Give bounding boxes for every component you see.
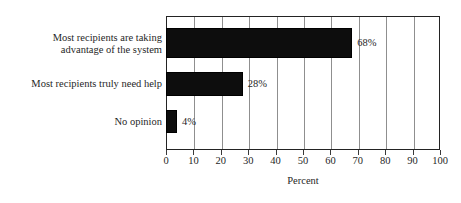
x-tick-label: 100 xyxy=(432,156,448,167)
bar xyxy=(166,110,177,133)
bar-value-label: 68% xyxy=(357,38,376,49)
bar-value-label: 28% xyxy=(248,79,267,90)
bar-row: 4% xyxy=(166,110,440,133)
category-label: Most recipients are taking advantage of … xyxy=(53,32,162,55)
bar-row: 28% xyxy=(166,72,440,96)
x-tick-label: 10 xyxy=(188,156,199,167)
bars-layer: 68%28%4% xyxy=(166,16,440,150)
x-tick-label: 0 xyxy=(163,156,168,167)
bar-row: 68% xyxy=(166,28,440,58)
bar xyxy=(166,72,243,96)
category-label: Most recipients truly need help xyxy=(31,78,162,90)
x-tick-label: 50 xyxy=(298,156,309,167)
category-label: No opinion xyxy=(114,116,162,128)
x-tick-label: 20 xyxy=(216,156,227,167)
x-tick-label: 70 xyxy=(353,156,364,167)
cropped-title-remnant xyxy=(0,0,461,3)
x-tick-label: 60 xyxy=(325,156,336,167)
x-tick-label: 40 xyxy=(270,156,281,167)
x-tick-label: 90 xyxy=(407,156,418,167)
bar-value-label: 4% xyxy=(182,116,196,127)
x-tick-label: 30 xyxy=(243,156,254,167)
x-tick-label: 80 xyxy=(380,156,391,167)
bar xyxy=(166,28,352,58)
x-axis-title: Percent xyxy=(166,176,440,187)
